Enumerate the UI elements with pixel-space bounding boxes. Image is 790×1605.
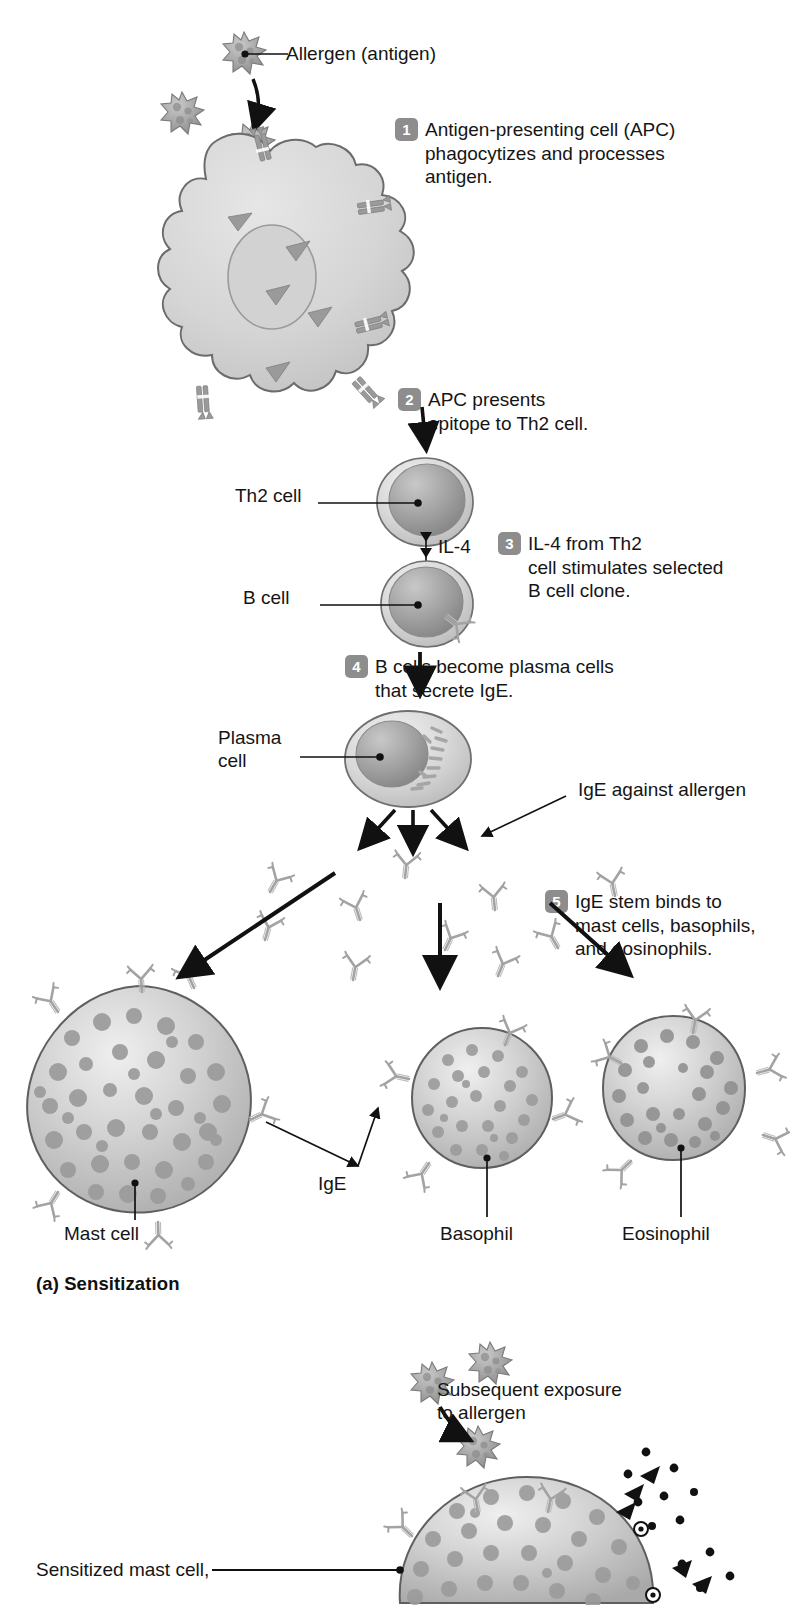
ige-antibody (403, 1155, 440, 1192)
ige-antibody (603, 1151, 641, 1189)
panel-a-caption: (a) Sensitization (36, 1273, 180, 1295)
step-3-text: IL-4 from Th2 cell stimulates selected B… (528, 532, 723, 603)
ige-antibody (759, 1122, 790, 1156)
sensitized-mast-cell-leader (212, 1558, 432, 1582)
step-3: 3 IL-4 from Th2 cell stimulates selected… (498, 532, 788, 603)
ige-antibody (492, 1015, 527, 1050)
ige-against-allergen-label: IgE against allergen (578, 778, 746, 801)
th2-cell-label: Th2 cell (235, 484, 302, 507)
sensitized-mast-cell-ige (380, 1420, 640, 1550)
ige-antibody (384, 1508, 422, 1546)
eosinophil-leader (672, 1145, 692, 1221)
released-mediators (620, 1440, 790, 1602)
ige-antibody (32, 982, 69, 1019)
ige-antibody (33, 1185, 70, 1222)
ige-antibody (753, 1053, 786, 1086)
mast-cell-leader (126, 1180, 146, 1224)
subsequent-exposure-label: Subsequent exposure to allergen (437, 1378, 622, 1424)
ige-antibody (460, 1484, 491, 1515)
step-4: 4 B cells become plasma cells that secre… (345, 655, 765, 702)
mast-cell-label: Mast cell (64, 1222, 139, 1245)
mhc-receptor (350, 195, 460, 245)
step-2-text: APC presents epitope to Th2 cell. (428, 388, 588, 435)
step-1-text: Antigen-presenting cell (APC) phagocytiz… (425, 118, 675, 189)
ige-antibody (680, 1005, 711, 1036)
allergen-label: Allergen (antigen) (286, 42, 436, 65)
step-4-text: B cells become plasma cells that secrete… (375, 655, 614, 702)
mast-cell-surface-ige (10, 960, 290, 1250)
th2-cell-leader (318, 494, 428, 514)
basophil-leader (478, 1155, 498, 1221)
mhc-receptor (240, 120, 320, 180)
ige-label: IgE (318, 1172, 347, 1195)
ige-antibody (591, 1039, 627, 1075)
eosinophil-label: Eosinophil (622, 1222, 710, 1245)
plasma-cell-label: Plasma cell (218, 726, 281, 772)
plasma-cell-leader (300, 748, 410, 768)
ige-antibody (548, 1097, 582, 1131)
ige-antibody (535, 1483, 567, 1515)
ige-antibody (127, 965, 156, 993)
step-3-badge: 3 (498, 532, 521, 555)
b-cell-label: B cell (243, 586, 289, 609)
mhc-receptor (350, 310, 460, 360)
basophil-label: Basophil (440, 1222, 513, 1245)
sensitized-mast-cell-label: Sensitized mast cell, (36, 1558, 209, 1581)
step-4-badge: 4 (345, 655, 368, 678)
b-cell-leader (320, 596, 430, 616)
mhc-receptor (180, 380, 260, 450)
ige-antibody (380, 1060, 412, 1092)
ige-antibody (145, 1222, 173, 1249)
